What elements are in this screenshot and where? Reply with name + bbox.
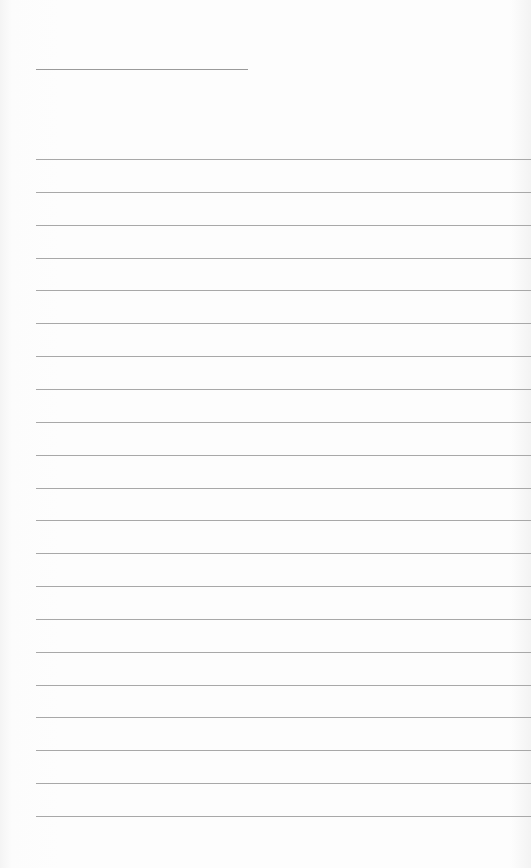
ruled-line	[36, 356, 531, 357]
ruled-line	[36, 159, 531, 160]
ruled-line	[36, 750, 531, 751]
ruled-line	[36, 816, 531, 817]
ruled-line	[36, 323, 531, 324]
lined-paper-sheet	[0, 0, 531, 868]
ruled-line	[36, 422, 531, 423]
ruled-line	[36, 290, 531, 291]
ruled-line	[36, 389, 531, 390]
ruled-line	[36, 455, 531, 456]
ruled-line	[36, 717, 531, 718]
header-name-line	[36, 69, 248, 70]
ruled-line	[36, 783, 531, 784]
ruled-line	[36, 192, 531, 193]
ruled-line	[36, 586, 531, 587]
ruled-line	[36, 520, 531, 521]
ruled-line	[36, 553, 531, 554]
ruled-line	[36, 619, 531, 620]
ruled-line	[36, 685, 531, 686]
ruled-line	[36, 258, 531, 259]
ruled-line	[36, 488, 531, 489]
ruled-line	[36, 225, 531, 226]
ruled-line	[36, 652, 531, 653]
